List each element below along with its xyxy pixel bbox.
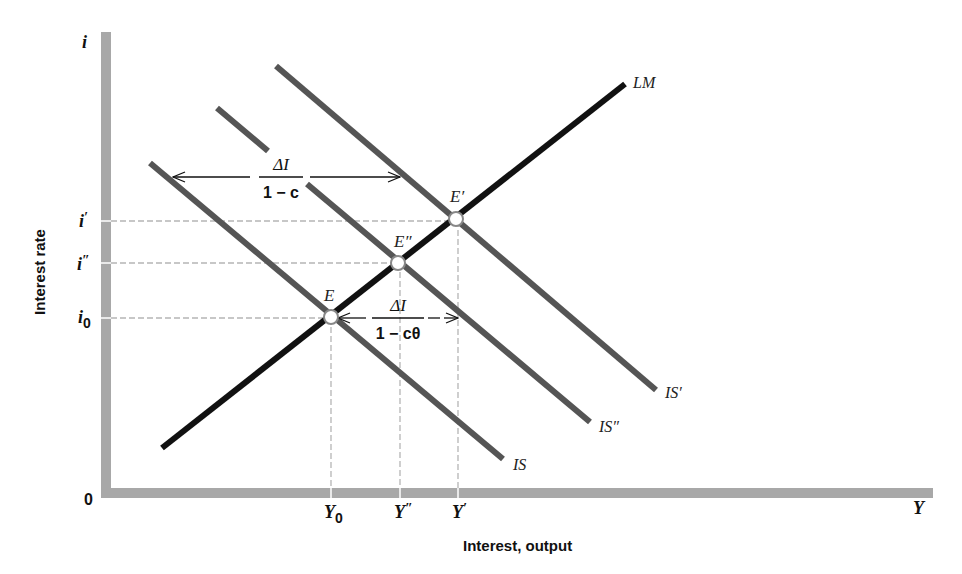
lower-numerator: ΔI: [389, 296, 407, 315]
x-axis-title: Interest, output: [463, 537, 572, 554]
is-double-prime-curve-upper: [217, 108, 268, 151]
y-axis-bar: [101, 32, 111, 498]
x-axis-symbol: Y: [913, 498, 926, 518]
tick-label-Y-prime: Y′: [452, 501, 467, 522]
equilibrium-E-double-prime: [391, 256, 405, 270]
tick-label-i-prime: i′: [79, 210, 88, 231]
is-lm-diagram: ΔI 1 − c ΔI 1 − cθ E E″ E′ LM IS′ IS″ IS…: [0, 0, 962, 574]
label-IS-prime: IS′: [664, 384, 682, 401]
tick-label-Y-double-prime: Y″: [394, 501, 413, 522]
equilibrium-E: [324, 310, 338, 324]
lower-denominator: 1 − cθ: [376, 325, 421, 342]
y-axis-title: Interest rate: [31, 229, 48, 315]
equilibrium-E-prime: [449, 212, 463, 226]
upper-denominator: 1 − c: [263, 184, 299, 201]
tick-label-i-double-prime: i″: [77, 253, 90, 274]
lower-multiplier: ΔI 1 − cθ: [372, 296, 424, 342]
upper-multiplier: ΔI 1 − c: [259, 155, 303, 201]
label-LM: LM: [632, 74, 657, 91]
origin-label: 0: [84, 491, 93, 508]
label-E-double-prime: E″: [393, 232, 412, 251]
label-E-prime: E′: [449, 187, 464, 206]
tick-label-Y-zero: Y0: [324, 502, 343, 526]
tick-label-i-zero: i0: [78, 307, 91, 331]
axes: [101, 32, 933, 498]
y-axis-symbol: i: [82, 32, 87, 52]
label-IS: IS: [512, 456, 526, 473]
label-E: E: [323, 286, 335, 305]
upper-numerator: ΔI: [272, 155, 290, 174]
x-axis-bar: [101, 488, 933, 498]
is-prime-curve: [276, 66, 656, 390]
label-IS-double-prime: IS″: [598, 418, 619, 435]
